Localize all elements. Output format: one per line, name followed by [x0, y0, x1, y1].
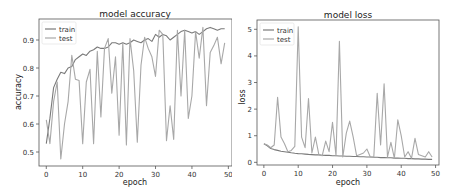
x-tick-label: 0: [262, 170, 266, 178]
legend-label-train: train: [277, 27, 293, 35]
figure: model accuracy 010203040500.50.60.70.80.…: [0, 0, 464, 196]
x-tick-label: 20: [328, 170, 337, 178]
y-tick-label: 1: [248, 132, 252, 140]
x-tick-label: 30: [151, 171, 160, 179]
x-tick-label: 40: [397, 170, 406, 178]
legend-label-test: test: [59, 35, 73, 43]
y-tick-label: 3: [248, 79, 252, 87]
x-tick-label: 10: [294, 170, 303, 178]
y-tick-label: 0: [248, 159, 252, 167]
y-tick-label: 4: [248, 52, 253, 60]
y-tick-label: 0.7: [23, 93, 34, 101]
series-line-test: [46, 27, 224, 159]
legend: traintest: [260, 23, 294, 45]
legend-label-test: test: [277, 36, 291, 44]
y-tick-label: 0.6: [23, 121, 35, 129]
x-tick-label: 50: [431, 170, 440, 178]
loss-x-label: epoch: [336, 178, 360, 187]
x-tick-label: 30: [362, 170, 371, 178]
series-line-test: [264, 27, 432, 159]
loss-y-label: loss: [238, 89, 247, 104]
y-tick-label: 0.8: [23, 65, 34, 73]
accuracy-y-label: accuracy: [14, 74, 23, 110]
loss-plot-area: 01020304050012345traintest: [248, 20, 440, 178]
y-tick-label: 2: [248, 106, 252, 114]
y-tick-label: 0.5: [23, 149, 34, 157]
x-tick-label: 0: [44, 171, 48, 179]
accuracy-chart-title: model accuracy: [99, 9, 171, 19]
legend: traintest: [42, 22, 76, 44]
y-tick-label: 0.9: [23, 37, 34, 45]
accuracy-x-label: epoch: [123, 178, 147, 187]
accuracy-plot-area: 010203040500.50.60.70.80.9traintest: [23, 19, 232, 179]
x-tick-label: 10: [78, 171, 87, 179]
loss-chart: model loss 01020304050012345traintest ep…: [232, 0, 464, 196]
accuracy-chart: model accuracy 010203040500.50.60.70.80.…: [0, 0, 232, 196]
legend-label-train: train: [59, 26, 75, 34]
x-tick-label: 40: [187, 171, 196, 179]
loss-chart-title: model loss: [324, 10, 373, 20]
y-tick-label: 5: [248, 26, 252, 34]
x-tick-label: 50: [224, 171, 232, 179]
